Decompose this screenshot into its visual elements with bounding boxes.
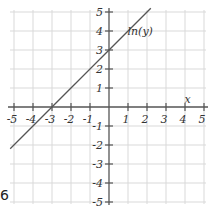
y-tick-label: 4 [95,25,103,38]
annotations: ln(y)x [128,25,192,106]
y-tick-label: 1 [96,82,103,95]
y-tick-label: -2 [92,139,103,152]
y-tick-label: 3 [96,44,103,57]
y-tick-label: -5 [92,196,103,206]
question-number: 6 [0,187,9,203]
x-tick-label: -5 [7,113,18,126]
axes [8,8,208,205]
y-tick-label: 5 [96,6,103,19]
x-tick-label: -3 [45,113,56,126]
x-tick-label: 2 [141,113,149,126]
x-tick-label: 1 [123,113,130,126]
tick-labels: -5-4-3-2-11234554321-1-2-3-4-5 [7,6,206,206]
y-tick-label: -4 [92,177,103,190]
x-tick-label: -2 [64,113,75,126]
x-axis-label: x [185,93,192,106]
x-tick-label: 3 [161,113,168,126]
y-tick-label: 2 [95,63,103,76]
x-tick-label: 5 [199,113,206,126]
y-tick-label: -1 [92,120,103,133]
chart: -5-4-3-2-11234554321-1-2-3-4-5 ln(y)x [0,0,210,206]
y-tick-label: -3 [92,158,103,171]
series-label: ln(y) [128,25,153,38]
x-tick-label: 4 [179,113,187,126]
